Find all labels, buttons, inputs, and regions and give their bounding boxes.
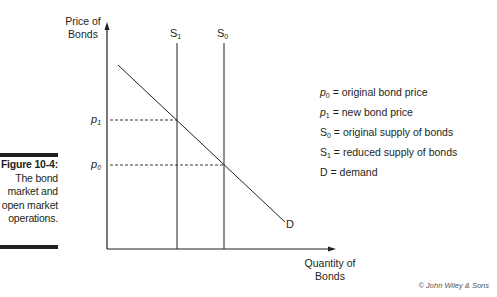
legend-item: S1 = reduced supply of bonds <box>320 144 457 164</box>
figure-number: Figure 10-4: <box>0 158 58 172</box>
legend-item: p0 = original bond price <box>320 84 457 104</box>
s0-label: S0 <box>217 27 228 40</box>
d-label: D <box>286 218 294 230</box>
caption-line: operations. <box>0 212 58 226</box>
legend-item: S0 = original supply of bonds <box>320 124 457 144</box>
legend-item: p1 = new bond price <box>320 104 457 124</box>
legend: p0 = original bond price p1 = new bond p… <box>320 84 457 180</box>
x-axis-label-line2: Bonds <box>290 270 370 283</box>
legend-item: D = demand <box>320 164 457 180</box>
demand-curve <box>118 65 285 222</box>
x-axis-arrow-icon <box>328 247 336 252</box>
p1-label: p1 <box>91 113 101 126</box>
caption-top-rule <box>0 153 58 157</box>
copyright-credit: © John Wiley & Sons <box>419 281 490 290</box>
caption-line: market and <box>0 185 58 199</box>
x-axis-label-line1: Quantity of <box>290 257 370 270</box>
x-axis-label: Quantity of Bonds <box>290 257 370 283</box>
p0-label: p0 <box>91 158 101 171</box>
caption-bottom-rule <box>0 245 58 249</box>
y-axis-label-line2: Bonds <box>60 28 106 41</box>
y-axis-label-line1: Price of <box>60 15 106 28</box>
caption-line: The bond <box>0 172 58 186</box>
figure-caption: Figure 10-4: The bond market and open ma… <box>0 158 58 226</box>
s1-label: S1 <box>170 27 181 40</box>
caption-line: open market <box>0 199 58 213</box>
y-axis-label: Price of Bonds <box>60 15 106 41</box>
